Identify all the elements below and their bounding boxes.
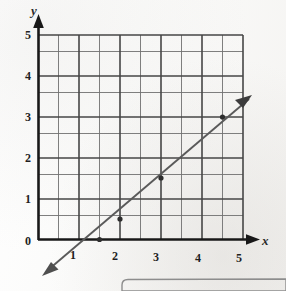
x-axis-arrowhead: [246, 234, 260, 245]
bottom-cropped-box: [122, 279, 286, 291]
origin-label: 0: [21, 235, 35, 247]
line-point-marker: [220, 114, 225, 119]
x-tick-label-3: 3: [149, 251, 163, 263]
grid-minor-lines: [38, 35, 243, 240]
x-tick-label-4: 4: [191, 252, 205, 264]
axes: [33, 14, 260, 245]
line-point-marker: [97, 237, 102, 242]
y-tick-label-2: 2: [21, 152, 35, 164]
line-point-marker: [158, 175, 163, 180]
x-tick-label-1: 1: [66, 249, 80, 261]
plotted-line: [48, 99, 249, 270]
line-point-marker: [117, 216, 122, 221]
y-axis-label: y: [31, 4, 37, 17]
y-tick-label-4: 4: [21, 70, 35, 82]
graph-screenshot: y x 0 1 2 3 4 5 1 2 3 4 5: [0, 0, 286, 291]
x-tick-label-2: 2: [108, 250, 122, 262]
x-axis-label: x: [262, 234, 269, 247]
y-tick-label-5: 5: [21, 29, 35, 41]
coordinate-plot: [0, 0, 286, 291]
x-tick-label-5: 5: [232, 252, 246, 264]
y-tick-label-1: 1: [21, 193, 35, 205]
y-tick-label-3: 3: [21, 111, 35, 123]
